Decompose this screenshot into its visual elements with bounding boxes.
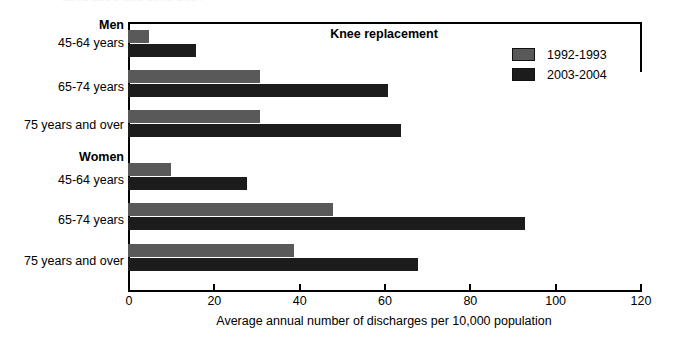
bar-women-75-over-1992-1993 [128,244,294,257]
bar-men-75-over-1992-1993 [128,110,260,123]
legend-swatch-1992-1993 [512,48,535,61]
x-tick-label-80: 80 [450,294,490,308]
x-tick-mark-40 [299,284,301,292]
x-tick-mark-0 [128,284,130,292]
legend-item-2003-2004: 2003-2004 [512,66,607,83]
legend-label-1992-1993: 1992-1993 [547,48,607,62]
x-tick-label-40: 40 [280,294,320,308]
category-label-women-45-64: 45-64 years [0,174,124,187]
x-tick-label-0: 0 [109,294,149,308]
category-label-women-75-over: 75 years and over [0,255,124,268]
category-label-men-45-64: 45-64 years [0,37,124,50]
x-tick-label-100: 100 [536,294,576,308]
legend-swatch-2003-2004 [512,68,535,81]
category-label-men-65-74: 65-74 years [0,81,124,94]
x-tick-label-60: 60 [365,294,405,308]
chart-figure: 1992-1993 and 2003-2004 Knee replacement… [0,0,681,337]
group-label-women: Women [0,151,124,164]
group-label-men: Men [0,19,124,32]
bar-women-65-74-2003-2004 [128,217,525,230]
x-tick-mark-100 [555,284,557,292]
bar-women-75-over-2003-2004 [128,258,418,271]
x-tick-mark-20 [213,284,215,292]
bar-men-45-64-2003-2004 [128,44,196,57]
bar-women-65-74-1992-1993 [128,203,333,216]
category-label-men-75-over: 75 years and over [0,119,124,132]
x-axis-title: Average annual number of discharges per … [128,314,640,328]
legend-item-1992-1993: 1992-1993 [512,46,607,63]
category-label-women-65-74: 65-74 years [0,214,124,227]
x-tick-mark-60 [384,284,386,292]
bar-men-65-74-2003-2004 [128,84,388,97]
legend-label-2003-2004: 2003-2004 [547,68,607,82]
chart-legend: 1992-1993 2003-2004 [512,46,607,86]
bar-women-45-64-2003-2004 [128,177,247,190]
bar-women-45-64-1992-1993 [128,163,171,176]
x-tick-label-20: 20 [194,294,234,308]
bar-men-75-over-2003-2004 [128,124,401,137]
bar-men-45-64-1992-1993 [128,30,149,43]
category-labels: Men 45-64 years 65-74 years 75 years and… [0,0,124,337]
chart-title: Knee replacement [128,27,640,41]
x-tick-label-120: 120 [621,294,661,308]
x-tick-mark-80 [469,284,471,292]
x-tick-mark-120 [640,284,642,292]
bar-men-65-74-1992-1993 [128,70,260,83]
plot-right-border [640,22,642,72]
